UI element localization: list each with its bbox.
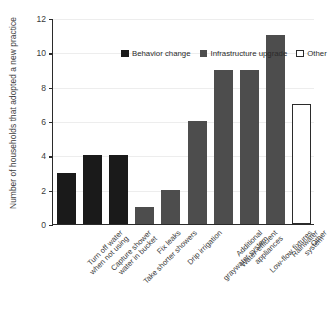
bar xyxy=(83,155,102,224)
legend-swatch-icon xyxy=(296,50,304,58)
bar xyxy=(188,121,207,224)
x-axis-tick-labels: Turn off water when not usingCapture sho… xyxy=(52,226,314,312)
bar xyxy=(266,35,285,224)
bar xyxy=(135,207,154,224)
legend-label: Other xyxy=(307,49,327,58)
legend-swatch-icon xyxy=(121,50,129,58)
bar xyxy=(161,190,180,224)
y-axis-tick-label: 12 xyxy=(36,14,46,24)
bar xyxy=(57,173,76,225)
legend-swatch-icon xyxy=(200,50,208,58)
bar xyxy=(109,155,128,224)
y-axis-tick-label: 4 xyxy=(41,151,46,161)
y-axis-tick-label: 10 xyxy=(36,48,46,58)
legend-item: Behavior change xyxy=(121,49,191,58)
legend-label: Infrastructure upgrade xyxy=(211,49,288,58)
legend-item: Other xyxy=(296,49,327,58)
bar xyxy=(292,104,311,224)
y-axis-tick-label: 8 xyxy=(41,83,46,93)
plot-area: 024681012 Behavior changeInfrastructure … xyxy=(52,19,314,225)
y-axis-tick-label: 6 xyxy=(41,117,46,127)
bar xyxy=(214,70,233,225)
y-axis-tick-label: 2 xyxy=(41,186,46,196)
chart-legend: Behavior changeInfrastructure upgradeOth… xyxy=(121,49,327,58)
y-axis-title-container: Number of households that adopted a new … xyxy=(0,0,26,226)
bar xyxy=(240,70,259,225)
legend-item: Infrastructure upgrade xyxy=(200,49,288,58)
y-axis-title: Number of households that adopted a new … xyxy=(8,17,18,209)
y-axis-tick-label: 0 xyxy=(41,220,46,230)
legend-label: Behavior change xyxy=(132,49,191,58)
